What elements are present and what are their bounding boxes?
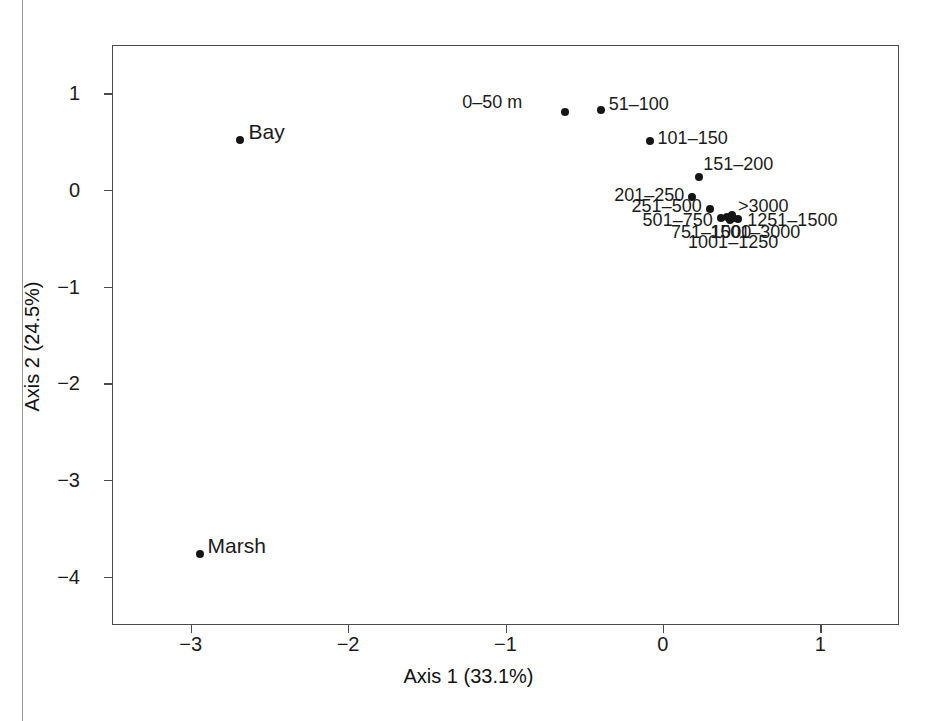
point-annotation: 51–100 [609,95,669,113]
x-axis-title: Axis 1 (33.1%) [0,665,937,688]
x-tick-label: 0 [657,633,668,656]
x-tick-mark [348,625,349,633]
data-point [728,211,736,219]
data-point [688,193,696,201]
x-tick-mark [820,625,821,633]
point-annotation: 0–50 m [462,93,522,111]
data-point [726,216,734,224]
y-tick-mark [104,287,112,288]
ordination-scatter-figure: Axis 1 (33.1%) Axis 2 (24.5%) −3−2−10110… [0,0,937,721]
data-points-layer [113,46,898,624]
y-tick-label: 1 [69,82,80,105]
x-tick-mark [506,625,507,633]
y-tick-label: −3 [57,469,80,492]
data-point [734,215,742,223]
x-tick-label: −2 [337,633,360,656]
point-annotation: 201–250 [614,186,684,204]
point-annotation: 1251–1500 [747,211,837,229]
point-annotation: >3000 [738,197,789,215]
point-annotation: 101–150 [658,129,728,147]
point-label-bay: Bay [248,120,284,141]
point-annotation: 501–750 [643,211,713,229]
x-tick-label: −1 [494,633,517,656]
x-tick-mark [663,625,664,633]
data-point [723,213,731,221]
y-tick-label: 0 [69,179,80,202]
data-point [196,550,204,558]
y-tick-label: −2 [57,372,80,395]
point-annotation: 251–500 [632,197,702,215]
y-tick-mark [104,190,112,191]
y-axis-title: Axis 2 (24.5%) [21,147,44,547]
y-tick-mark [104,93,112,94]
data-point [717,214,725,222]
data-point [706,205,714,213]
x-tick-label: 1 [815,633,826,656]
y-tick-mark [104,480,112,481]
data-point [561,108,569,116]
point-labels-layer: BayMarsh0–50 m51–100101–150151–200201–25… [113,46,898,624]
y-tick-mark [104,577,112,578]
point-annotation: 151–200 [703,155,773,173]
data-point [729,214,737,222]
x-tick-mark [191,625,192,633]
caption-fragment [395,700,935,720]
y-tick-label: −1 [57,275,80,298]
y-tick-label: −4 [57,565,80,588]
y-tick-mark [104,383,112,384]
point-label-marsh: Marsh [208,535,266,556]
data-point [597,106,605,114]
point-annotation: 751–1000 [671,223,751,241]
point-annotation: 1501–3000 [710,223,800,241]
plot-area: BayMarsh0–50 m51–100101–150151–200201–25… [112,45,899,625]
data-point [236,136,244,144]
point-annotation: 1001–1250 [688,233,778,251]
data-point [695,173,703,181]
data-point [646,137,654,145]
x-tick-label: −3 [179,633,202,656]
